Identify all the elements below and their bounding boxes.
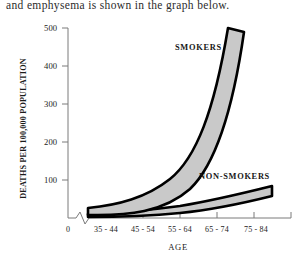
band-smokers: [88, 28, 244, 215]
y-axis-ticks: [62, 28, 68, 180]
y-tick-label-300: 300: [44, 99, 57, 109]
chart-container: DEATHS PER 100,000 POPULATION 500 400 30…: [0, 16, 298, 258]
y-tick-label-500: 500: [44, 23, 57, 33]
x-category-label-3: 65 - 74: [205, 225, 229, 234]
x-category-label-0: 35 - 44: [94, 225, 118, 234]
series-label-non-smokers: NON-SMOKERS: [199, 172, 270, 181]
x-category-label-4: 75 - 84: [244, 225, 268, 234]
x-category-label-2: 55 - 64: [168, 225, 192, 234]
y-tick-label-100: 100: [44, 175, 57, 185]
x-category-label-1: 45 - 54: [131, 225, 155, 234]
y-axis-label: DEATHS PER 100,000 POPULATION: [19, 54, 28, 204]
y-tick-label-400: 400: [44, 61, 57, 71]
y-tick-label-200: 200: [44, 137, 57, 147]
series-label-smokers: SMOKERS: [175, 43, 222, 52]
chart-svg: 500 400 300 200 100 SMOKERS NON-SMO: [0, 16, 298, 258]
chart-page: and emphysema is shown in the graph belo…: [0, 0, 298, 258]
caption-text: and emphysema is shown in the graph belo…: [6, 0, 292, 11]
x-axis-title: AGE: [168, 242, 187, 252]
x-origin-label: 0: [66, 225, 70, 234]
